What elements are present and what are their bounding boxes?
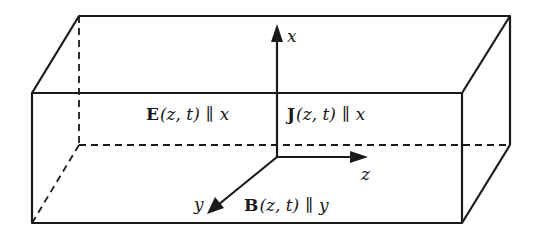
z-axis-label: z bbox=[360, 164, 371, 184]
electric-field-label: E(z, t)∥x bbox=[146, 104, 230, 124]
top-face-edges bbox=[32, 16, 510, 93]
magnetic-field-label: B(z, t)∥y bbox=[244, 195, 329, 215]
box-diagram: x z y E(z, t)∥x J(z, t)∥x B(z, t)∥y bbox=[0, 0, 539, 237]
bottom-left-depth-edge bbox=[32, 145, 79, 223]
y-axis-arrowhead-icon bbox=[207, 197, 224, 214]
hidden-edges bbox=[32, 16, 510, 223]
bottom-right-depth-edge bbox=[462, 145, 510, 223]
y-axis-label: y bbox=[193, 194, 204, 214]
z-axis-arrowhead-icon bbox=[350, 151, 368, 163]
current-density-label: J(z, t)∥x bbox=[285, 104, 366, 124]
x-axis-label: x bbox=[287, 26, 297, 46]
x-axis-arrowhead-icon bbox=[271, 24, 283, 42]
